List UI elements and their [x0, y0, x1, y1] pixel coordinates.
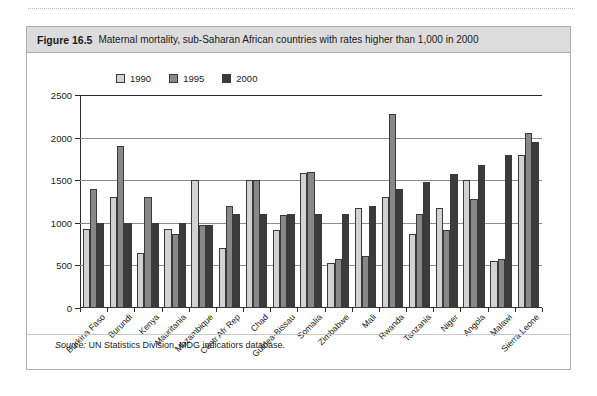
bar-group — [488, 95, 515, 308]
source-note: Source: UN Statistics Division, MDG indi… — [55, 340, 285, 350]
chart-area: 1990 1995 2000 05001000150020002500 Burk… — [27, 53, 570, 370]
bar-group — [243, 95, 270, 308]
y-tick-label-2500: 2500 — [51, 90, 72, 101]
y-tick-label-0: 0 — [67, 303, 72, 314]
y-tick-label-1000: 1000 — [51, 217, 72, 228]
bar-1990 — [246, 180, 253, 308]
legend-swatch-icon-1990 — [116, 74, 125, 83]
bar-1990 — [191, 180, 198, 308]
bar-group — [433, 95, 460, 308]
bar-1990 — [382, 197, 389, 308]
bar-1990 — [436, 208, 443, 308]
legend-label-1995: 1995 — [183, 73, 204, 84]
legend-label-2000: 2000 — [236, 73, 257, 84]
source-label: Source: — [55, 340, 86, 350]
bar-group — [515, 95, 542, 308]
bar-group — [80, 95, 107, 308]
plot-area: 05001000150020002500 — [80, 95, 542, 308]
legend-swatch-icon-1995 — [169, 74, 178, 83]
legend-item-2000: 2000 — [222, 73, 257, 84]
bar-group — [460, 95, 487, 308]
bar-1990 — [355, 208, 362, 308]
bar-1995 — [280, 215, 287, 308]
figure-caption: Maternal mortality, sub-Saharan African … — [98, 34, 478, 45]
bar-2000 — [423, 182, 430, 308]
bar-group — [216, 95, 243, 308]
bar-1990 — [518, 155, 525, 308]
figure-header: Figure 16.5 Maternal mortality, sub-Saha… — [27, 27, 570, 53]
y-tick-label-500: 500 — [56, 260, 72, 271]
bar-group — [406, 95, 433, 308]
figure-container: Figure 16.5 Maternal mortality, sub-Saha… — [26, 26, 571, 370]
bar-group — [107, 95, 134, 308]
bar-group — [297, 95, 324, 308]
figure-number: Figure 16.5 — [37, 34, 92, 46]
bar-1995 — [470, 199, 477, 308]
bar-2000 — [97, 223, 104, 308]
bar-2000 — [396, 189, 403, 308]
bar-2000 — [179, 223, 186, 308]
y-tick-label-1500: 1500 — [51, 175, 72, 186]
source-text: UN Statistics Division, MDG indicatiors … — [89, 340, 286, 350]
bar-1990 — [300, 173, 307, 308]
bar-2000 — [478, 165, 485, 308]
bar-group — [162, 95, 189, 308]
legend-label-1990: 1990 — [130, 73, 151, 84]
bar-1990 — [463, 180, 470, 308]
bar-1995 — [90, 189, 97, 308]
bar-1995 — [525, 133, 532, 308]
chart-legend: 1990 1995 2000 — [116, 73, 257, 84]
bar-2000 — [532, 142, 539, 308]
bar-group — [270, 95, 297, 308]
legend-swatch-icon-2000 — [222, 74, 231, 83]
y-tick-label-2000: 2000 — [51, 132, 72, 143]
bar-1990 — [110, 197, 117, 308]
bar-2000 — [287, 214, 294, 308]
bar-2000 — [505, 155, 512, 308]
legend-item-1995: 1995 — [169, 73, 204, 84]
bar-1990 — [273, 230, 280, 308]
bar-group — [134, 95, 161, 308]
source-divider — [27, 334, 570, 335]
page-top-rule — [28, 8, 573, 9]
bar-group — [352, 95, 379, 308]
bar-1990 — [83, 229, 90, 308]
bar-1995 — [117, 146, 124, 308]
bar-series-layer — [80, 95, 542, 308]
bar-1995 — [389, 114, 396, 308]
bar-group — [379, 95, 406, 308]
bar-group — [189, 95, 216, 308]
legend-item-1990: 1990 — [116, 73, 151, 84]
